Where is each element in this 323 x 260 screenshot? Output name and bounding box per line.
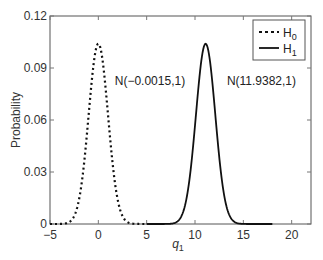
distribution-annotation: N(11.9382,1) (227, 74, 296, 88)
x-tick-label: 5 (143, 228, 150, 242)
legend: H0H1 (253, 20, 305, 60)
x-axis-label: q1 (172, 237, 184, 253)
y-axis-label: Probability (9, 92, 23, 148)
y-tick-label: 0 (40, 217, 47, 231)
data-curves (50, 44, 272, 224)
x-tick-label: 20 (285, 228, 299, 242)
y-tick-label: 0.12 (24, 9, 48, 23)
legend-box (253, 20, 305, 60)
y-tick-label: 0.03 (24, 165, 48, 179)
x-tick-label: 10 (188, 228, 202, 242)
y-tick-label: 0.06 (24, 113, 48, 127)
distribution-annotation: N(−0.0015,1) (115, 74, 185, 88)
y-tick-label: 0.09 (24, 61, 48, 75)
chart: −50510152000.030.060.090.12 N(−0.0015,1)… (0, 0, 323, 260)
annotations: N(−0.0015,1)N(11.9382,1) (115, 74, 296, 88)
x-tick-label: 0 (95, 228, 102, 242)
series-h1-line (147, 44, 273, 224)
series-h0-line (50, 44, 147, 224)
x-tick-label: 15 (237, 228, 251, 242)
